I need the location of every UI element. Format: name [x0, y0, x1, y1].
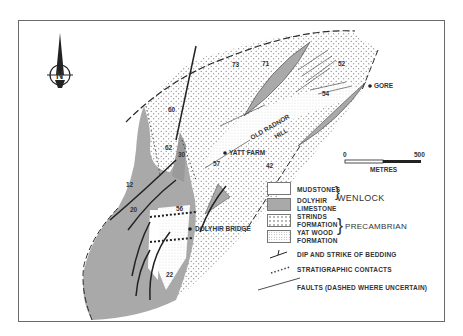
- brace-wenlock: }: [335, 184, 340, 200]
- dip-value: 71: [262, 60, 270, 67]
- scale-min: 0: [343, 151, 347, 158]
- place-dolyhir-bridge: DOLYHIR BRIDGE: [195, 225, 251, 232]
- legend-unit-label: FORMATION: [297, 221, 338, 229]
- fault-symbol-icon: [258, 278, 300, 290]
- dip-value: 60: [168, 106, 176, 113]
- brace-precambrian: }: [337, 215, 343, 236]
- legend-group-wenlock: WENLOCK: [337, 193, 385, 203]
- dip-value: 73: [232, 61, 240, 68]
- dip-value: 57: [213, 160, 221, 167]
- dip-strike-symbol-icon: [270, 250, 287, 258]
- place-yatt-farm: YATT FARM: [229, 149, 265, 156]
- legend-symbol-faults: FAULTS (DASHED WHERE UNCERTAIN): [297, 284, 427, 292]
- scale-unit: METRES: [370, 166, 398, 173]
- dip-value: 22: [166, 271, 174, 278]
- dip-value: 62: [165, 144, 173, 151]
- legend-unit-label: YAT WOOD: [297, 229, 333, 237]
- legend-symbol-dip-strike: DIP AND STRIKE OF BEDDING: [297, 251, 397, 259]
- dip-value: 54: [322, 90, 330, 97]
- legend-unit-label: FORMATION: [297, 237, 338, 245]
- dolyhir-bridge-marker: [188, 227, 192, 231]
- dip-value: 42: [266, 162, 274, 169]
- swatch-mudstones: [267, 182, 291, 195]
- stratigraphic-contact-symbol-icon: [271, 267, 290, 273]
- dip-value: 56: [176, 205, 184, 212]
- mudstones-white: [148, 210, 160, 280]
- place-gore: GORE: [374, 82, 394, 89]
- dip-value: 30: [178, 151, 186, 158]
- north-arrow-icon: N: [47, 33, 73, 88]
- legend-unit-label: DOLYHIR: [297, 197, 327, 205]
- legend-unit-label: STRINDS: [297, 213, 327, 221]
- legend-unit-label: MUDSTONES: [297, 186, 340, 194]
- swatch-strinds-formation: [267, 214, 291, 227]
- dip-value: 52: [338, 60, 346, 67]
- swatch-dolyhir-limestone: [267, 198, 291, 211]
- yatt-farm-marker: [223, 151, 227, 155]
- scale-max: 500: [414, 151, 425, 158]
- north-label: N: [56, 70, 63, 81]
- scale-bar: 0 500 METRES: [343, 151, 425, 173]
- gore-marker: [368, 84, 372, 88]
- legend-unit-label: LIMESTONE: [297, 205, 337, 213]
- swatch-yat-wood-formation: [267, 230, 291, 243]
- dip-value: 12: [126, 181, 134, 188]
- legend-symbol-contacts: STRATIGRAPHIC CONTACTS: [297, 266, 392, 274]
- legend-group-precambrian: PRECAMBRIAN: [345, 222, 407, 231]
- dip-value: 20: [130, 206, 138, 213]
